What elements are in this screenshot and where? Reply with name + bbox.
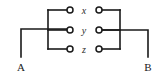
end-label-a: A [17,61,25,73]
terminal-z-right [96,46,102,52]
wire-lead-a [21,29,67,57]
end-label-b: B [144,61,151,73]
branch-label-x: x [81,5,87,16]
terminal-x-right [96,7,102,13]
circuit-schematic: x y z A B [0,0,160,75]
terminal-z-left [67,46,73,52]
terminal-y-right [96,27,102,33]
branch-label-y: y [81,25,87,36]
terminal-x-left [67,7,73,13]
wire-lead-b [102,30,148,57]
circuit-diagram-canvas: x y z A B [0,0,160,75]
terminal-y-left [67,27,73,33]
branch-label-z: z [81,44,86,55]
